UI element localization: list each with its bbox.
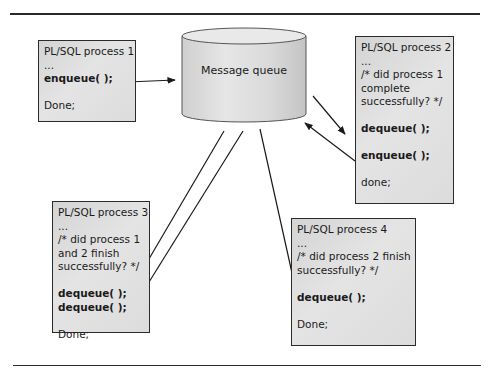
- code-line: successfully? */: [58, 260, 144, 274]
- code-line: Done;: [44, 99, 130, 113]
- code-line: done;: [361, 176, 448, 190]
- blank-line: [361, 109, 448, 123]
- code-line: /* did process 1: [58, 233, 144, 247]
- code-line: /* did process 2 finish: [297, 250, 410, 264]
- code-line: enqueue( );: [44, 72, 130, 86]
- code-line: /* did process 1: [361, 68, 448, 82]
- code-line: enqueue( );: [361, 149, 448, 163]
- code-line: and 2 finish: [58, 247, 144, 261]
- code-line: complete: [361, 82, 448, 96]
- code-line: successfully? */: [361, 95, 448, 109]
- blank-line: [58, 314, 144, 328]
- arrow-process2-enqueue-to-queue: [305, 123, 355, 161]
- process-2-box: PL/SQL process 2 .../* did process 1comp…: [355, 36, 454, 204]
- code-line: dequeue( );: [361, 122, 448, 136]
- blank-line: [361, 163, 448, 177]
- code-line: dequeue( );: [58, 287, 144, 301]
- process-4-box: PL/SQL process 4 .../* did process 2 fin…: [291, 218, 416, 346]
- message-queue-label: Message queue: [182, 64, 306, 77]
- code-line: successfully? */: [297, 264, 410, 278]
- code-line: ...: [44, 59, 130, 73]
- code-line: ...: [297, 237, 410, 251]
- code-line: Done;: [297, 318, 410, 332]
- code-line: dequeue( );: [58, 301, 144, 315]
- process-3-box: PL/SQL process 3 .../* did process 1and …: [52, 201, 150, 333]
- process-title: PL/SQL process 1: [44, 45, 130, 59]
- blank-line: [297, 304, 410, 318]
- arrow-queue-to-process2-dequeue: [313, 96, 345, 134]
- code-line: ...: [58, 220, 144, 234]
- process-title: PL/SQL process 3: [58, 206, 144, 220]
- blank-line: [297, 277, 410, 291]
- process-title: PL/SQL process 4: [297, 223, 410, 237]
- code-line: ...: [361, 55, 448, 69]
- process-title: PL/SQL process 2: [361, 41, 448, 55]
- blank-line: [58, 274, 144, 288]
- blank-line: [44, 86, 130, 100]
- process-1-box: PL/SQL process 1 ...enqueue( );Done;: [38, 40, 136, 122]
- blank-line: [361, 136, 448, 150]
- code-line: dequeue( );: [297, 291, 410, 305]
- code-line: Done;: [58, 328, 144, 342]
